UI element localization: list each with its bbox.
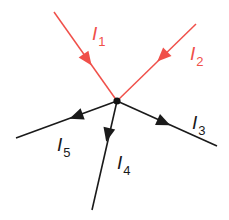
junction-node bbox=[113, 97, 120, 104]
label-i3: I3 bbox=[192, 113, 206, 132]
label-i4-symbol: I bbox=[117, 152, 122, 173]
label-i1-symbol: I bbox=[92, 23, 97, 44]
wire-i4 bbox=[92, 101, 117, 210]
arrow-i3-icon bbox=[155, 114, 173, 131]
arrow-i1-icon bbox=[79, 51, 97, 69]
label-i3-subscript: 3 bbox=[198, 123, 205, 138]
junction-diagram: I1 I2 I3 I4 I5 bbox=[0, 0, 229, 220]
label-i2-symbol: I bbox=[190, 43, 195, 64]
label-i5: I5 bbox=[57, 135, 71, 154]
diagram-svg bbox=[0, 0, 229, 220]
label-i4-subscript: 4 bbox=[123, 163, 130, 178]
label-i5-subscript: 5 bbox=[63, 145, 70, 160]
label-i5-symbol: I bbox=[57, 134, 62, 155]
label-i3-symbol: I bbox=[192, 112, 197, 133]
wire-i2 bbox=[117, 24, 196, 101]
label-i2-subscript: 2 bbox=[196, 54, 203, 69]
label-i2: I2 bbox=[190, 44, 204, 63]
label-i1-subscript: 1 bbox=[98, 34, 105, 49]
arrow-i5-icon bbox=[67, 108, 84, 124]
label-i1: I1 bbox=[92, 24, 106, 43]
label-i4: I4 bbox=[117, 153, 131, 172]
wire-i5 bbox=[16, 101, 117, 138]
